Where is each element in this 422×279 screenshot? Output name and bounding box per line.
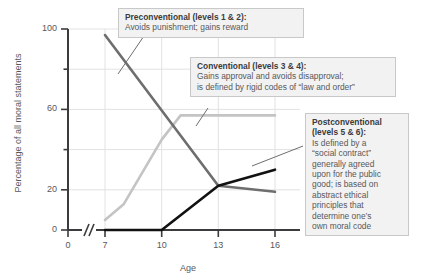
y-tick-label-100: 100 [31,23,57,33]
annotation-preconventional: Preconventional (levels 1 & 2): Avoids p… [118,8,304,38]
annotation-postconventional-line-2: “social contract” [312,148,403,158]
annotation-postconventional-line-1: Is defined by a [312,138,403,148]
y-axis-ticks [61,29,68,230]
leader-line-postconventional [252,146,303,166]
annotation-conventional-line-1: Gains approval and avoids disapproval; [197,71,390,81]
x-tick-label-0: 0 [58,240,78,250]
y-axis-label: Percentage of all moral statements [13,43,23,203]
annotation-postconventional-line-6: abstract ethical [312,190,403,200]
leader-line-preconventional [118,33,146,74]
series-line-postconventional [105,170,275,230]
y-tick-label-0: 0 [31,224,57,234]
annotation-postconventional-line-5: good; is based on [312,179,403,189]
annotation-preconventional-line-1: Avoids punishment; gains reward [125,22,298,32]
annotation-postconventional-line-3: generally agreed [312,159,403,169]
x-tick-label-13: 13 [208,240,228,250]
gridlines-horizontal [68,29,300,190]
x-tick-label-7: 7 [95,240,115,250]
annotation-postconventional-line-4: upon for the public [312,169,403,179]
series-line-conventional [105,115,275,219]
annotation-conventional-title: Conventional (levels 3 & 4): [197,61,390,71]
x-tick-label-16: 16 [265,240,285,250]
annotation-preconventional-title: Preconventional (levels 1 & 2): [125,12,298,22]
y-tick-label-20: 20 [31,184,57,194]
annotation-postconventional-title-2: (levels 5 & 6): [312,127,403,137]
chart-container: Percentage of all moral statements Age 0… [0,0,422,279]
annotation-postconventional-title: Postconventional [312,117,403,127]
x-axis-ticks [68,230,275,237]
leader-line-conventional [196,108,208,126]
annotation-postconventional-line-8: determine one’s [312,211,403,221]
annotation-conventional-line-2: is defined by rigid codes of “law and or… [197,82,390,92]
x-tick-label-10: 10 [152,240,172,250]
axis-break-icon [82,224,96,236]
annotation-postconventional-line-9: own moral code [312,221,403,231]
y-tick-label-60: 60 [31,103,57,113]
annotation-conventional: Conventional (levels 3 & 4): Gains appro… [190,57,396,97]
x-axis-label: Age [180,263,196,273]
annotation-postconventional: Postconventional (levels 5 & 6): Is defi… [305,113,409,236]
annotation-postconventional-line-7: principles that [312,200,403,210]
